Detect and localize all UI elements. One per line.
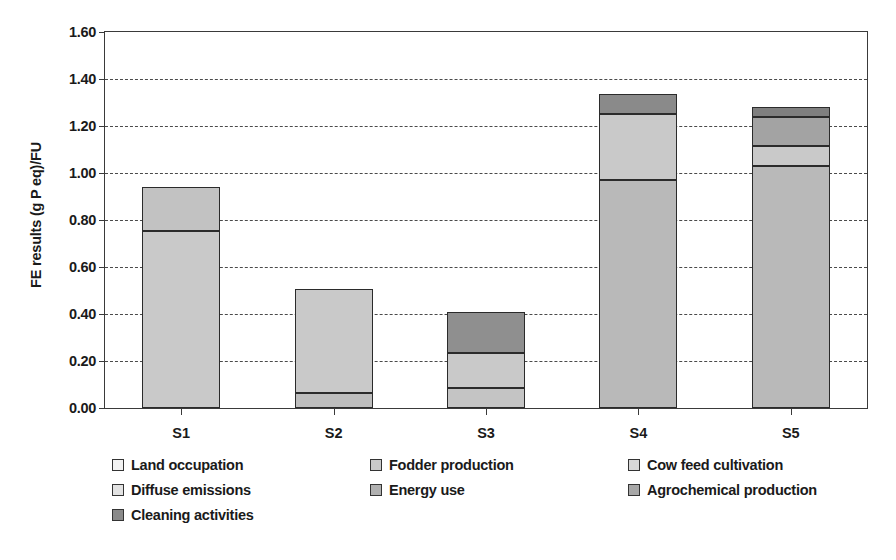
y-axis-title: FE results (g P eq)/FU [28, 27, 52, 403]
bar-segment[interactable] [752, 107, 830, 116]
x-axis-label-s1: S1 [172, 425, 190, 441]
bar-stack-s3[interactable] [447, 32, 525, 408]
legend-item[interactable]: Agrochemical production [628, 482, 817, 498]
y-axis-tick [99, 314, 105, 315]
legend-swatch-icon [628, 484, 640, 496]
y-axis-tick [99, 267, 105, 268]
x-axis-tick [638, 408, 639, 415]
bar-segment[interactable] [447, 388, 525, 408]
bar-segment[interactable] [752, 117, 830, 146]
legend-item-label: Energy use [389, 482, 465, 498]
legend-item-label: Agrochemical production [647, 482, 817, 498]
x-axis-tick [334, 408, 335, 415]
y-axis-tick [99, 173, 105, 174]
legend-swatch-icon [370, 459, 382, 471]
bar-segment[interactable] [599, 114, 677, 180]
bar-stack-s5[interactable] [752, 32, 830, 408]
y-axis-tick [99, 126, 105, 127]
y-axis-tick-label: 1.60 [69, 24, 96, 40]
y-axis-tick [99, 408, 105, 409]
bar-segment[interactable] [752, 146, 830, 166]
bar-stack-s4[interactable] [599, 32, 677, 408]
bar-stack-s1[interactable] [142, 32, 220, 408]
chart-legend: Land occupationDiffuse emissionsCleaning… [112, 457, 882, 553]
legend-item[interactable]: Land occupation [112, 457, 243, 473]
bar-segment[interactable] [447, 312, 525, 353]
bar-segment[interactable] [295, 393, 373, 408]
legend-swatch-icon [370, 484, 382, 496]
legend-swatch-icon [112, 509, 124, 521]
y-axis-tick-label: 0.40 [69, 306, 96, 322]
x-axis-tick [181, 408, 182, 415]
bar-segment[interactable] [752, 166, 830, 408]
y-axis-tick-label: 1.20 [69, 118, 96, 134]
legend-swatch-icon [628, 459, 640, 471]
legend-item[interactable]: Fodder production [370, 457, 514, 473]
x-axis-label-s2: S2 [325, 425, 343, 441]
x-axis-label-s4: S4 [630, 425, 648, 441]
y-axis-tick-label: 1.40 [69, 71, 96, 87]
bar-segment[interactable] [447, 353, 525, 388]
y-axis-tick [99, 79, 105, 80]
x-axis-label-s3: S3 [477, 425, 495, 441]
y-axis-tick [99, 361, 105, 362]
x-axis-tick [791, 408, 792, 415]
legend-item-label: Land occupation [131, 457, 243, 473]
bar-segment[interactable] [599, 180, 677, 408]
plot-area: 0.000.200.400.600.801.001.201.401.60S1S2… [104, 31, 868, 409]
y-axis-tick-label: 0.80 [69, 212, 96, 228]
y-axis-tick-label: 1.00 [69, 165, 96, 181]
legend-item-label: Fodder production [389, 457, 514, 473]
legend-item-label: Cleaning activities [131, 507, 254, 523]
legend-item[interactable]: Cow feed cultivation [628, 457, 783, 473]
y-axis-tick-label: 0.60 [69, 259, 96, 275]
bar-segment[interactable] [142, 187, 220, 230]
legend-item[interactable]: Cleaning activities [112, 507, 254, 523]
x-axis-tick [486, 408, 487, 415]
bar-segment[interactable] [599, 94, 677, 114]
legend-swatch-icon [112, 459, 124, 471]
legend-item-label: Diffuse emissions [131, 482, 251, 498]
legend-item[interactable]: Energy use [370, 482, 465, 498]
bar-segment[interactable] [295, 289, 373, 392]
x-axis-label-s5: S5 [782, 425, 800, 441]
legend-swatch-icon [112, 484, 124, 496]
bar-segment[interactable] [142, 231, 220, 408]
legend-item[interactable]: Diffuse emissions [112, 482, 251, 498]
legend-item-label: Cow feed cultivation [647, 457, 783, 473]
y-axis-tick-label: 0.20 [69, 353, 96, 369]
y-axis-tick [99, 32, 105, 33]
chart-figure: FE results (g P eq)/FU 0.000.200.400.600… [0, 0, 896, 560]
y-axis-tick [99, 220, 105, 221]
y-axis-tick-label: 0.00 [69, 400, 96, 416]
bar-stack-s2[interactable] [295, 32, 373, 408]
